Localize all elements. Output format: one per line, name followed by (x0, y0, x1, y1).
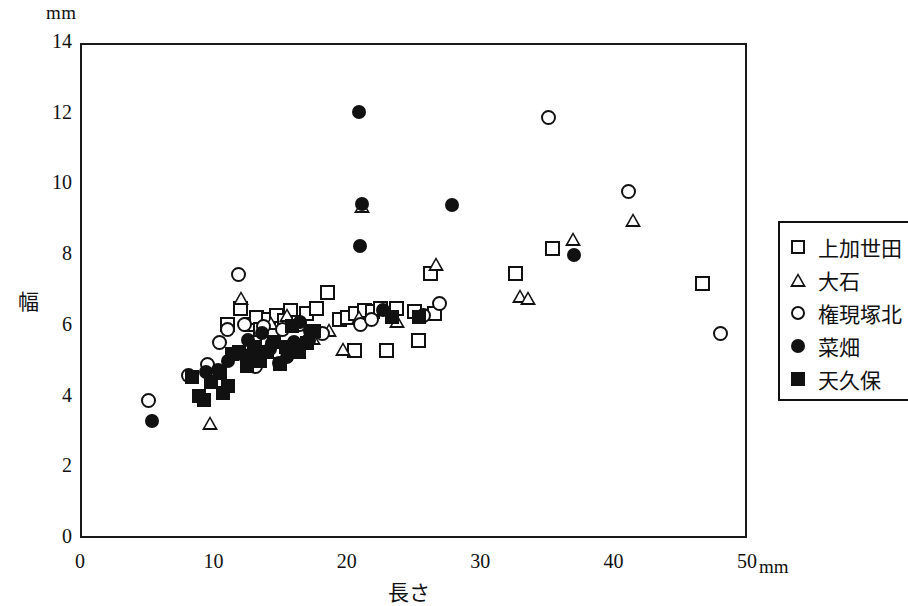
legend-item-label: 天久保 (812, 364, 881, 394)
data-point-circle-filled (352, 105, 366, 119)
y-axis-tick-label: 4 (32, 384, 72, 407)
data-point-circle-open (141, 393, 156, 408)
square-open-icon-glyph (791, 240, 805, 254)
data-point-circle-filled (145, 414, 159, 428)
circle-open-icon-glyph (791, 306, 805, 320)
data-point-square-open (545, 241, 560, 256)
data-point-circle-open (713, 326, 728, 341)
legend-item-label: 権現塚北 (812, 298, 902, 328)
data-point-circle-open (231, 267, 246, 282)
legend-item-3[interactable]: 権現塚北 (790, 296, 908, 329)
data-point-square-filled (300, 336, 314, 350)
x-axis-title: 長さ (388, 576, 430, 606)
legend-item-2[interactable]: 大石 (790, 263, 908, 296)
data-point-triangle-open (202, 416, 218, 430)
data-point-square-filled (412, 310, 426, 324)
data-point-circle-open (237, 317, 252, 332)
y-axis-tick-label: 10 (32, 171, 72, 194)
triangle-open-icon-glyph (790, 273, 806, 287)
y-axis-tick-label: 0 (32, 525, 72, 548)
legend-item-label: 菜畑 (812, 331, 860, 361)
triangle-open-icon (790, 270, 812, 290)
data-point-triangle-open (428, 257, 444, 271)
legend-item-1[interactable]: 上加世田 (790, 230, 908, 263)
data-point-square-open (320, 285, 335, 300)
data-point-triangle-open (233, 291, 249, 305)
data-point-square-filled (385, 310, 399, 324)
legend: 上加世田大石権現塚北菜畑天久保 (778, 221, 908, 401)
data-point-circle-open (621, 184, 636, 199)
data-point-circle-open (432, 296, 447, 311)
y-axis-tick-label: 2 (32, 454, 72, 477)
legend-item-5[interactable]: 天久保 (790, 362, 908, 395)
x-axis-tick-label: 10 (183, 550, 243, 573)
data-point-triangle-open (335, 342, 351, 356)
data-point-triangle-open (625, 213, 641, 227)
x-axis-tick-label: 40 (584, 550, 644, 573)
plot-area (80, 43, 747, 538)
square-filled-icon-glyph (791, 372, 805, 386)
data-point-triangle-open (520, 291, 536, 305)
legend-item-label: 上加世田 (812, 232, 902, 262)
data-point-square-open (379, 343, 394, 358)
y-axis-tick-label: 8 (32, 242, 72, 265)
data-point-square-open (695, 276, 710, 291)
data-point-square-filled (247, 340, 261, 354)
y-axis-tick-label: 14 (32, 30, 72, 53)
data-point-circle-filled (445, 198, 459, 212)
x-axis-tick-label: 20 (317, 550, 377, 573)
x-axis-tick-label: 30 (450, 550, 510, 573)
x-axis-tick-label: 0 (50, 550, 110, 573)
y-axis-tick-label: 12 (32, 101, 72, 124)
data-point-circle-open (220, 322, 235, 337)
data-point-square-filled (216, 386, 230, 400)
data-point-circle-open (541, 110, 556, 125)
data-point-square-filled (240, 359, 254, 373)
circle-filled-icon-glyph (791, 339, 805, 353)
data-point-square-filled (185, 370, 199, 384)
square-filled-icon (790, 369, 812, 389)
y-axis-tick-label: 6 (32, 313, 72, 336)
data-point-square-filled (279, 340, 293, 354)
data-point-square-filled (307, 324, 321, 338)
data-point-square-filled (273, 357, 287, 371)
data-point-circle-filled (567, 248, 581, 262)
x-axis-tick-label: 50 (717, 550, 777, 573)
data-point-circle-filled (355, 197, 369, 211)
data-point-square-filled (285, 319, 299, 333)
circle-open-icon (790, 303, 812, 323)
y-axis-unit-label: mm (46, 2, 77, 24)
data-point-square-filled (197, 393, 211, 407)
data-point-circle-filled (353, 239, 367, 253)
legend-item-label: 大石 (812, 265, 860, 295)
data-point-triangle-open (565, 232, 581, 246)
legend-item-4[interactable]: 菜畑 (790, 329, 908, 362)
circle-filled-icon (790, 336, 812, 356)
data-point-square-open (508, 266, 523, 281)
data-point-square-open (309, 301, 324, 316)
data-point-square-filled (232, 345, 246, 359)
square-open-icon (790, 237, 812, 257)
data-point-square-open (411, 333, 426, 348)
y-axis-title: 幅 (18, 285, 39, 315)
